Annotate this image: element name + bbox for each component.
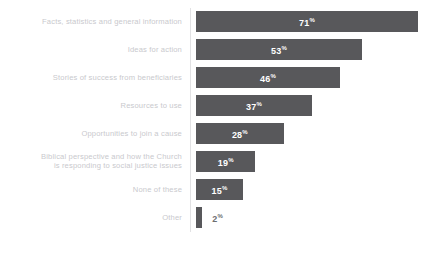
plot-area: Facts, statistics and general informatio… — [0, 0, 431, 255]
category-label: Resources to use — [0, 101, 182, 111]
category-label: Facts, statistics and general informatio… — [0, 17, 182, 27]
percent-sign: % — [222, 184, 227, 190]
percent-sign: % — [256, 100, 261, 106]
bar-value-number: 71 — [299, 17, 309, 27]
percent-sign: % — [281, 44, 286, 50]
bar-track: 53% — [196, 39, 431, 60]
bar-row: Opportunities to join a cause28% — [0, 123, 431, 144]
percent-sign: % — [217, 212, 222, 218]
bar-value-label: 71% — [196, 16, 418, 27]
bar-row: Biblical perspective and how the Church … — [0, 151, 431, 172]
bar-value-number: 28 — [232, 129, 242, 139]
bar-value-number: 53 — [271, 45, 281, 55]
bar-value-label: 53% — [196, 44, 362, 55]
category-label: Ideas for action — [0, 45, 182, 55]
bar-row: Facts, statistics and general informatio… — [0, 11, 431, 32]
bar-track: 71% — [196, 11, 431, 32]
bar-row: Ideas for action53% — [0, 39, 431, 60]
percent-sign: % — [228, 156, 233, 162]
category-label: Biblical perspective and how the Church … — [0, 152, 182, 171]
bar-track: 46% — [196, 67, 431, 88]
percent-sign: % — [242, 128, 247, 134]
category-label: Stories of success from beneficiaries — [0, 73, 182, 83]
bar-track: 19% — [196, 151, 431, 172]
bar-track: 15% — [196, 179, 431, 200]
category-label: Other — [0, 213, 182, 223]
bar-value-number: 37 — [246, 101, 256, 111]
bar-value-label: 28% — [196, 128, 284, 139]
bar-value-label: 37% — [196, 100, 312, 111]
bar-track: 37% — [196, 95, 431, 116]
bar-row: Other2% — [0, 207, 431, 228]
bar — [196, 207, 202, 228]
category-label: None of these — [0, 185, 182, 195]
percent-sign: % — [270, 72, 275, 78]
bar-value-number: 19 — [218, 157, 228, 167]
bar-row: Resources to use37% — [0, 95, 431, 116]
bar-value-number: 46 — [260, 73, 270, 83]
bar-track: 2% — [196, 207, 431, 228]
bar-value-label: 15% — [196, 184, 243, 195]
category-label: Opportunities to join a cause — [0, 129, 182, 139]
bar-rows: Facts, statistics and general informatio… — [0, 11, 431, 235]
bar-value-label: 46% — [196, 72, 340, 83]
bar-value-label: 2% — [212, 212, 223, 223]
bar-value-number: 15 — [212, 185, 222, 195]
bar-row: None of these15% — [0, 179, 431, 200]
bar-value-label: 19% — [196, 156, 255, 167]
bar-chart: Facts, statistics and general informatio… — [0, 0, 431, 255]
percent-sign: % — [310, 16, 315, 22]
bar-track: 28% — [196, 123, 431, 144]
bar-row: Stories of success from beneficiaries46% — [0, 67, 431, 88]
